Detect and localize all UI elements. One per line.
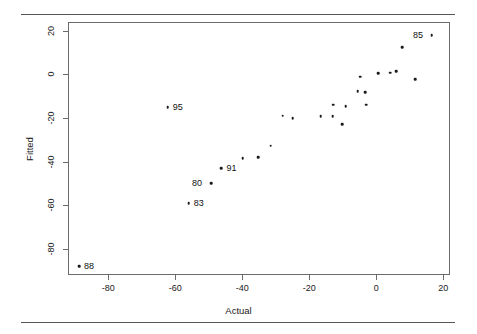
x-tick-mark [443, 275, 444, 280]
y-tick-label: -40 [46, 155, 56, 168]
x-tick-mark [175, 275, 176, 280]
x-tick-label: -20 [303, 283, 316, 293]
data-point-label: 80 [192, 179, 202, 188]
top-horizontal-rule [21, 14, 455, 15]
y-tick-label: -80 [46, 242, 56, 255]
y-tick-mark [63, 205, 68, 206]
x-tick-label: -40 [236, 283, 249, 293]
data-point-label: 95 [173, 103, 183, 112]
x-tick-mark [376, 275, 377, 280]
x-tick-label: -80 [102, 283, 115, 293]
data-point-label: 83 [194, 198, 204, 207]
x-tick-label: 0 [374, 283, 379, 293]
y-tick-mark [63, 249, 68, 250]
figure-page: 889583809185 -80-60-40-20020 -80-60-40-2… [0, 0, 477, 334]
data-point-label: 85 [413, 31, 423, 40]
x-tick-mark [242, 275, 243, 280]
x-axis-title: Actual [0, 305, 477, 316]
y-tick-mark [63, 74, 68, 75]
y-tick-label: -20 [46, 111, 56, 124]
data-point-label: 91 [226, 164, 236, 173]
y-tick-label: -60 [46, 199, 56, 212]
x-tick-label: 20 [438, 283, 448, 293]
y-tick-mark [63, 31, 68, 32]
x-tick-label: -60 [169, 283, 182, 293]
y-axis-title: Fitted [24, 137, 35, 161]
y-tick-label: 20 [46, 26, 56, 36]
scatter-plot-frame: 889583809185 [68, 22, 450, 275]
y-tick-mark [63, 118, 68, 119]
y-tick-label: 0 [46, 72, 56, 77]
point-labels-layer: 889583809185 [69, 23, 449, 274]
y-tick-mark [63, 162, 68, 163]
bottom-horizontal-rule [21, 322, 455, 323]
x-tick-mark [309, 275, 310, 280]
x-tick-mark [108, 275, 109, 280]
data-point-label: 88 [84, 262, 94, 271]
